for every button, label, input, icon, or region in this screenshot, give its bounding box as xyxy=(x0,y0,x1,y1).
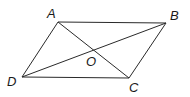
side-cd xyxy=(22,77,129,78)
vertex-label-d: D xyxy=(7,74,16,89)
vertex-label-a: A xyxy=(46,6,56,21)
side-ab xyxy=(58,22,166,23)
parallelogram-diagram: A B C D O xyxy=(0,0,190,97)
intersection-label-o: O xyxy=(86,54,96,69)
side-bc xyxy=(129,23,166,78)
vertex-label-b: B xyxy=(170,8,179,23)
vertex-label-c: C xyxy=(129,80,139,95)
side-da xyxy=(22,22,58,77)
